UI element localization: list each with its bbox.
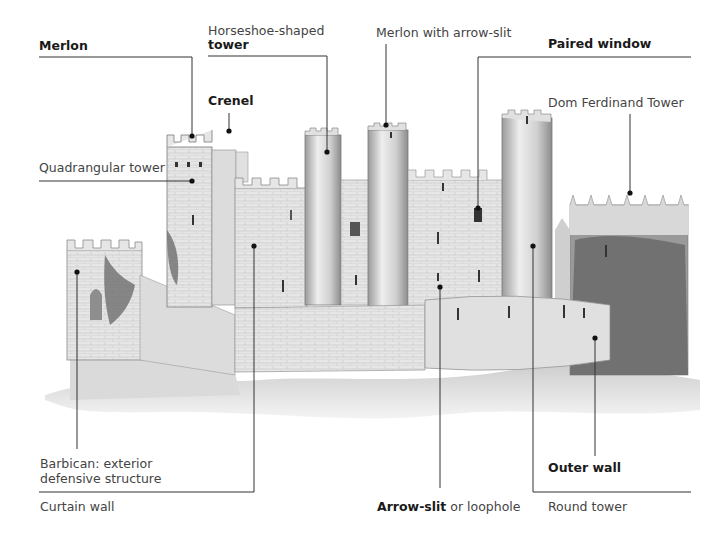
label-horseshoe-line2: tower: [208, 37, 249, 52]
central-wall: [408, 170, 503, 308]
round-tower-right: [502, 110, 552, 303]
label-barbican-line1: Barbican: exterior: [40, 456, 152, 471]
inner-wall-tower: [341, 180, 369, 305]
label-horseshoe-line1: Horseshoe-shaped: [208, 23, 324, 38]
label-merlon: Merlon: [39, 38, 88, 53]
label-merlon-arrow-slit: Merlon with arrow-slit: [376, 25, 511, 40]
label-arrow-slit: Arrow-slit or loophole: [377, 499, 520, 514]
label-arrow-slit-rest: or loophole: [446, 499, 520, 514]
curtain-wall-block: [235, 178, 307, 308]
label-arrow-slit-bold: Arrow-slit: [377, 499, 446, 514]
horseshoe-tower: [305, 128, 341, 305]
label-barbican-line2: defensive structure: [40, 471, 161, 486]
round-tower-center: [368, 123, 408, 308]
label-round-tower: Round tower: [548, 499, 627, 514]
label-outer-wall: Outer wall: [548, 460, 621, 475]
label-crenel: Crenel: [208, 93, 253, 108]
label-dom-ferdinand-tower: Dom Ferdinand Tower: [548, 95, 684, 110]
outer-wall: [235, 296, 610, 372]
label-paired-window: Paired window: [548, 36, 651, 51]
label-quadrangular-tower: Quadrangular tower: [39, 160, 165, 175]
label-curtain-wall: Curtain wall: [40, 499, 115, 514]
